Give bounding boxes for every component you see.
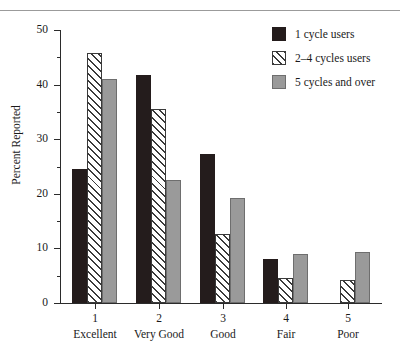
solid-gray-swatch xyxy=(272,75,286,89)
legend-item: 2–4 cycles users xyxy=(272,48,397,68)
bar xyxy=(263,259,278,303)
x-tick xyxy=(286,303,287,309)
hatched-swatch xyxy=(272,51,286,65)
y-tick-minor xyxy=(57,276,61,277)
y-tick-label: 30 xyxy=(8,133,48,145)
y-tick-label: 20 xyxy=(8,188,48,200)
bar-group xyxy=(200,30,245,303)
bar xyxy=(151,109,166,303)
y-tick-minor xyxy=(57,221,61,222)
bar xyxy=(102,79,117,303)
bar xyxy=(230,198,245,303)
bar xyxy=(87,53,102,303)
bar xyxy=(355,252,370,303)
y-tick-minor xyxy=(57,57,61,58)
bar xyxy=(278,278,293,303)
y-tick-label: 10 xyxy=(8,242,48,254)
bar-group xyxy=(72,30,117,303)
x-axis-line xyxy=(60,303,382,304)
x-label-number: 5 xyxy=(302,311,394,325)
bar xyxy=(136,75,151,303)
chart-legend: 1 cycle users2–4 cycles users5 cycles an… xyxy=(272,24,397,96)
y-tick-major xyxy=(54,30,61,31)
y-tick-minor xyxy=(57,167,61,168)
legend-item: 1 cycle users xyxy=(272,24,397,44)
bar xyxy=(215,234,230,303)
x-label-name: Poor xyxy=(302,327,394,341)
legend-item-label: 2–4 cycles users xyxy=(295,52,370,64)
y-tick-minor xyxy=(57,112,61,113)
bar xyxy=(200,154,215,303)
y-tick-label: 50 xyxy=(8,24,48,36)
y-tick-label: 0 xyxy=(8,297,48,309)
legend-item-label: 5 cycles and over xyxy=(295,76,375,88)
x-tick xyxy=(348,303,349,309)
y-tick-major xyxy=(54,248,61,249)
solid-dark-swatch xyxy=(272,27,286,41)
legend-item-label: 1 cycle users xyxy=(295,28,354,40)
bar xyxy=(293,254,308,303)
legend-item: 5 cycles and over xyxy=(272,72,397,92)
x-tick xyxy=(95,303,96,309)
bar xyxy=(72,169,87,303)
bar-chart: Percent Reported 50403020100 1Excellent2… xyxy=(0,11,400,363)
x-tick xyxy=(223,303,224,309)
x-tick xyxy=(159,303,160,309)
bar xyxy=(166,180,181,303)
y-tick-major xyxy=(54,85,61,86)
bar xyxy=(340,280,355,303)
bar-group xyxy=(136,30,181,303)
y-tick-label: 40 xyxy=(8,79,48,91)
x-axis-label: 5Poor xyxy=(302,311,394,341)
y-tick-major xyxy=(54,139,61,140)
y-tick-major xyxy=(54,194,61,195)
y-tick-major xyxy=(54,303,61,304)
